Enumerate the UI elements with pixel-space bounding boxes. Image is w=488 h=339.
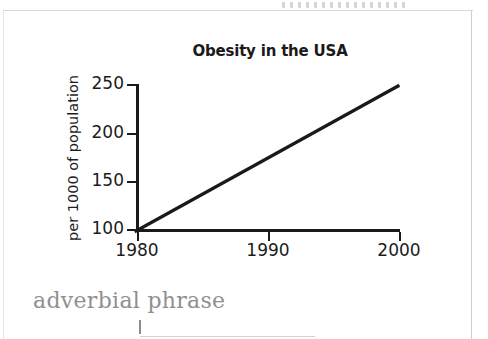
caption-pointer-tick xyxy=(139,320,141,334)
series-segment-1980-2000 xyxy=(136,86,398,231)
chart-title: Obesity in the USA xyxy=(137,42,403,60)
caption-underline-rule xyxy=(140,336,315,337)
y-tick-label-200: 200 xyxy=(78,122,124,142)
x-tick-label-2000: 2000 xyxy=(364,240,434,260)
figure-page: Obesity in the USA per 1000 of populatio… xyxy=(0,0,488,339)
series-obesity-rate xyxy=(136,84,400,232)
y-tick-250 xyxy=(127,84,136,86)
y-tick-label-250: 250 xyxy=(78,73,124,93)
obesity-line-chart: Obesity in the USA per 1000 of populatio… xyxy=(0,0,488,275)
x-tick-label-1980: 1980 xyxy=(102,240,172,260)
figure-caption: adverbial phrase xyxy=(33,288,225,313)
y-tick-200 xyxy=(127,133,136,135)
y-tick-150 xyxy=(127,181,136,183)
y-tick-label-150: 150 xyxy=(78,170,124,190)
x-tick-label-1990: 1990 xyxy=(233,240,303,260)
y-tick-label-100: 100 xyxy=(78,218,124,238)
